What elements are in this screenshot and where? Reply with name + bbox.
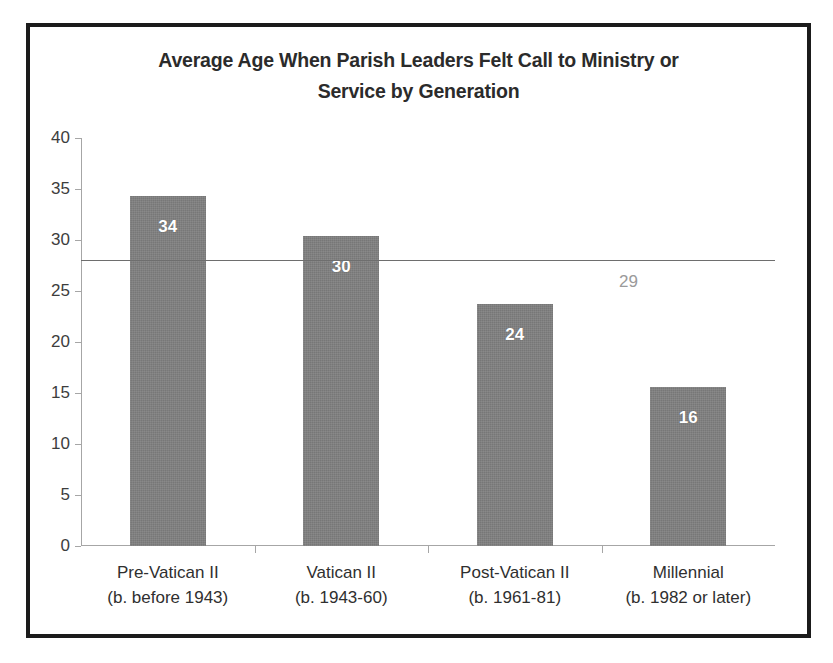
x-category-label: Millennial(b. 1982 or later) [602,560,776,610]
x-category-tick [255,546,256,553]
y-tick-mark [75,342,81,343]
x-axis-category-labels: Pre-Vatican II(b. before 1943)Vatican II… [81,560,775,610]
chart-title-line-1: Average Age When Parish Leaders Felt Cal… [30,45,807,76]
y-axis-line [81,138,82,546]
y-tick-mark [75,138,81,139]
x-category-tick [602,546,603,553]
y-tick-label: 0 [61,536,70,556]
y-tick-label: 40 [51,128,70,148]
x-category-name: Millennial [602,560,776,585]
y-tick-mark [75,546,81,547]
y-tick-label: 35 [51,179,70,199]
x-category-name: Pre-Vatican II [81,560,255,585]
bar[interactable]: 16 [650,387,726,546]
x-category-label: Post-Vatican II(b. 1961-81) [428,560,602,610]
x-category-birthyears: (b. 1943-60) [255,585,429,610]
y-tick-mark [75,240,81,241]
y-tick-label: 25 [51,281,70,301]
bar-value-label: 24 [477,325,553,345]
x-category-birthyears: (b. 1982 or later) [602,585,776,610]
chart-title-line-2: Service by Generation [30,76,807,107]
y-tick-mark [75,393,81,394]
y-tick-mark [75,189,81,190]
plot-area: 4035302520151050 34302416 29 [81,138,775,546]
chart-title: Average Age When Parish Leaders Felt Cal… [30,45,807,107]
y-tick-mark [75,291,81,292]
y-tick-mark [75,495,81,496]
x-category-birthyears: (b. before 1943) [81,585,255,610]
average-reference-line [81,260,775,261]
y-tick-label: 20 [51,332,70,352]
average-reference-label: 29 [619,272,638,292]
x-category-label: Vatican II(b. 1943-60) [255,560,429,610]
bar[interactable]: 24 [477,304,553,546]
chart-frame: Average Age When Parish Leaders Felt Cal… [26,23,811,638]
x-category-tick [428,546,429,553]
x-category-name: Vatican II [255,560,429,585]
bar[interactable]: 34 [130,196,206,546]
bar-value-label: 16 [650,408,726,428]
x-category-label: Pre-Vatican II(b. before 1943) [81,560,255,610]
y-tick-label: 15 [51,383,70,403]
y-tick-label: 10 [51,434,70,454]
x-category-birthyears: (b. 1961-81) [428,585,602,610]
y-tick-label: 30 [51,230,70,250]
y-tick-mark [75,444,81,445]
bar-value-label: 34 [130,217,206,237]
x-category-name: Post-Vatican II [428,560,602,585]
bar[interactable]: 30 [303,236,379,546]
y-tick-label: 5 [61,485,70,505]
